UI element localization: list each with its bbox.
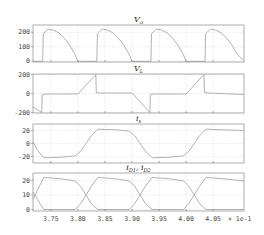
panel-output-voltage: 0100200Vo <box>18 15 244 65</box>
y-tick-label: -20 <box>18 153 30 161</box>
x-tick-label: 4.00 <box>178 215 194 223</box>
panel-title: iD1, iD2 <box>126 163 151 173</box>
panel-diode-currents: 01020iD1, iD2 <box>22 163 244 214</box>
x-tick-label: 3.85 <box>97 215 113 223</box>
y-tick-label: 20 <box>22 177 30 185</box>
panel-title: is <box>136 114 142 124</box>
plot-frame <box>33 25 244 62</box>
panel-inductor-voltage: -2000200VL <box>14 64 244 117</box>
y-tick-label: 0 <box>26 90 30 98</box>
y-tick-label: 0 <box>26 57 30 65</box>
y-tick-label: 20 <box>22 127 30 135</box>
x-tick-label: 3.95 <box>151 215 167 223</box>
y-tick-label: 200 <box>18 28 30 36</box>
trace-v-o <box>33 29 244 61</box>
x-axis: 3.753.803.853.903.954.004.05 <box>43 215 221 223</box>
y-tick-label: 100 <box>18 43 30 51</box>
y-tick-label: 200 <box>18 71 30 79</box>
y-tick-label: 0 <box>26 140 30 148</box>
x-tick-label: 3.80 <box>70 215 86 223</box>
waveform-figure: 0100200Vo -2000200VL -20020is 01020iD1, … <box>0 0 264 235</box>
trace-i-d1 <box>33 177 244 209</box>
y-tick-label: -200 <box>14 109 30 117</box>
x-tick-label: 3.75 <box>43 215 59 223</box>
panel-source-current: -20020is <box>18 114 244 163</box>
x-tick-label: 4.05 <box>205 215 221 223</box>
y-tick-label: 0 <box>26 206 30 214</box>
panel-title: Vo <box>134 15 143 25</box>
trace-i-d2 <box>33 177 244 209</box>
x-multiplier-label: × 1e-1 <box>228 215 252 223</box>
y-tick-label: 10 <box>22 191 30 199</box>
x-tick-label: 3.90 <box>124 215 140 223</box>
panel-title: VL <box>134 64 144 74</box>
